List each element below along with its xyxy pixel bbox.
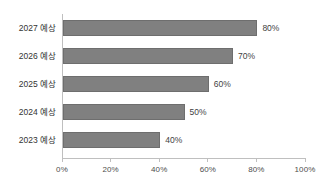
bar-row: 2027 예상 80% xyxy=(0,20,331,36)
category-label: 2027 예상 xyxy=(19,20,62,36)
x-axis-tick-label: 80% xyxy=(248,165,264,174)
bar-row: 2024 예상 50% xyxy=(0,104,331,120)
x-axis-tick-label: 40% xyxy=(151,165,167,174)
bar-value-label: 80% xyxy=(262,20,279,36)
category-label: 2023 예상 xyxy=(19,132,62,148)
bar-value-label: 70% xyxy=(238,48,255,64)
x-axis-tick-label: 20% xyxy=(102,165,118,174)
x-axis-tick xyxy=(110,158,111,162)
category-label: 2026 예상 xyxy=(19,48,62,64)
bar[interactable] xyxy=(63,20,257,36)
x-axis-tick xyxy=(305,158,306,162)
x-axis-tick-label: 60% xyxy=(200,165,216,174)
category-label: 2025 예상 xyxy=(19,76,62,92)
bar-row: 2025 예상 60% xyxy=(0,76,331,92)
bar[interactable] xyxy=(63,48,233,64)
category-label: 2024 예상 xyxy=(19,104,62,120)
bar-value-label: 60% xyxy=(214,76,231,92)
bar[interactable] xyxy=(63,76,209,92)
bar[interactable] xyxy=(63,104,185,120)
bar-chart: 0% 20% 40% 60% 80% 100% 2027 예상 80% 2026… xyxy=(0,0,331,190)
bar-row: 2026 예상 70% xyxy=(0,48,331,64)
bar[interactable] xyxy=(63,132,160,148)
bar-value-label: 50% xyxy=(190,104,207,120)
x-axis-tick xyxy=(207,158,208,162)
bar-value-label: 40% xyxy=(165,132,182,148)
x-axis-tick-label: 0% xyxy=(56,165,68,174)
bar-row: 2023 예상 40% xyxy=(0,132,331,148)
x-axis-tick xyxy=(256,158,257,162)
x-axis-line xyxy=(62,158,306,159)
x-axis-tick xyxy=(62,158,63,162)
x-axis-tick-label: 100% xyxy=(295,165,316,174)
x-axis-tick xyxy=(159,158,160,162)
